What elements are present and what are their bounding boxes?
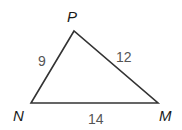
vertex-label-p: P [67,8,77,25]
side-length-nm: 14 [88,111,104,127]
vertex-label-m: M [159,107,172,124]
side-length-np: 9 [38,53,46,69]
triangle-diagram: P N M 9 12 14 [0,0,182,130]
triangle-pnm [31,31,158,103]
vertex-label-n: N [13,107,24,124]
side-length-pm: 12 [116,49,132,65]
